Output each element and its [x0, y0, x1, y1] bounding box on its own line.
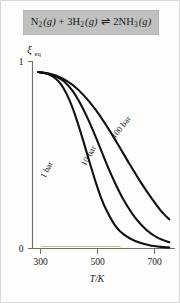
y-tick-label-0: 0: [19, 244, 24, 254]
y-axis-label-subscript: eq: [35, 50, 42, 57]
x-tick-label-500: 500: [90, 257, 105, 267]
curve-label-1-bar: 1 bar: [38, 159, 55, 179]
y-axis-label-symbol: ξ: [27, 43, 32, 56]
x-tick-label-700: 700: [147, 257, 162, 267]
curve-label-10-bar: 10 bar: [79, 143, 99, 167]
curve-1-bar: [38, 72, 169, 247]
x-tick-label-300: 300: [33, 257, 48, 267]
x-axis-title: T/K: [90, 274, 105, 284]
figure-container: N2 (g) + 3H2 (g) ⇌ 2NH3 (g) ξ eq 1 0 300: [0, 0, 180, 303]
y-tick-label-1: 1: [19, 57, 24, 67]
curve-label-100-bar: 100 bar: [109, 114, 133, 141]
curve-10-bar: [38, 72, 169, 242]
curve-100-bar: [38, 72, 169, 219]
equilibrium-extent-plot: ξ eq 1 0 300 500 700 T/K: [1, 1, 180, 303]
